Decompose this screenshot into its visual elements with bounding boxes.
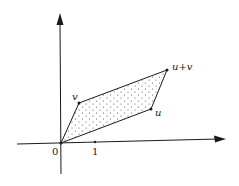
y-axis-arrow-icon bbox=[57, 13, 64, 25]
point-v bbox=[78, 102, 81, 105]
parallelogram-diagram: v u u+v 0 1 bbox=[0, 0, 239, 186]
point-u-plus-v bbox=[166, 69, 169, 72]
x-axis bbox=[17, 136, 226, 145]
x-axis-arrow-icon bbox=[214, 136, 226, 143]
point-u bbox=[150, 108, 153, 111]
parallelogram-region bbox=[61, 70, 167, 143]
origin-point bbox=[60, 142, 63, 145]
label-u: u bbox=[155, 107, 161, 118]
label-tick-1: 1 bbox=[92, 146, 98, 157]
tick-1 bbox=[94, 141, 96, 143]
label-origin: 0 bbox=[52, 146, 58, 157]
label-u-plus-v: u+v bbox=[172, 61, 193, 72]
label-v: v bbox=[72, 91, 78, 102]
